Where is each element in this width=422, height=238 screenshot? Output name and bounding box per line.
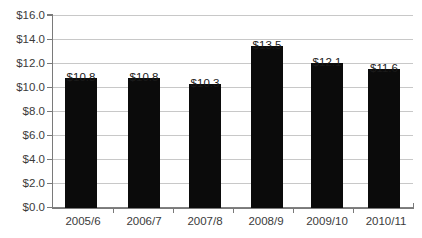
x-axis-label-2008-9: 2008/9	[248, 216, 283, 228]
bar-chart-figure: $16.0 $14.0 $12.0 $10.0 $8.0 $6.0 $4.0 $…	[0, 0, 422, 238]
y-axis-tick-label: $14.0	[1, 34, 45, 46]
bar-2010-11	[368, 69, 400, 208]
bar-value-label-2008-9: $13.5	[253, 40, 282, 52]
gridline	[53, 135, 413, 136]
bar-value-label-2006-7: $10.8	[130, 72, 159, 84]
x-axis-end-cap	[413, 203, 414, 209]
y-axis-tick-label: $12.0	[1, 58, 45, 70]
bar-2009-10	[311, 63, 343, 208]
bar-2006-7	[128, 78, 160, 208]
bar-value-label-2005-6: $10.8	[67, 72, 96, 84]
y-axis-tick-label: $6.0	[1, 130, 45, 142]
x-axis-label-2007-8: 2007/8	[187, 216, 222, 228]
y-axis-tick-label: $10.0	[1, 82, 45, 94]
x-axis-label-2010-11: 2010/11	[366, 216, 407, 228]
bar-value-label-2007-8: $10.3	[191, 78, 220, 90]
bar-2008-9	[251, 46, 283, 208]
x-axis-tick-mark	[353, 208, 354, 213]
x-axis-label-2006-7: 2006/7	[126, 216, 161, 228]
x-axis-tick-mark	[293, 208, 294, 213]
y-axis-tick-label: $0.0	[1, 202, 45, 214]
bar-2007-8	[189, 84, 221, 208]
gridline	[53, 39, 413, 40]
bar-value-label-2009-10: $12.1	[313, 57, 342, 69]
gridline	[53, 159, 413, 160]
gridline	[53, 63, 413, 64]
y-axis-tick-label: $4.0	[1, 154, 45, 166]
x-axis-tick-mark	[173, 208, 174, 213]
y-axis-top-cap	[47, 14, 53, 15]
gridline	[53, 183, 413, 184]
gridline	[53, 111, 413, 112]
x-axis-label-2005-6: 2005/6	[65, 216, 100, 228]
y-axis-line	[52, 14, 53, 209]
bar-value-label-2010-11: $11.6	[370, 63, 398, 75]
x-axis-tick-mark	[233, 208, 234, 213]
y-axis-labels: $16.0 $14.0 $12.0 $10.0 $8.0 $6.0 $4.0 $…	[0, 0, 45, 238]
x-axis-tick-mark	[113, 208, 114, 213]
x-axis-label-2009-10: 2009/10	[306, 216, 348, 228]
y-axis-tick-label: $16.0	[1, 10, 45, 22]
y-axis-tick-label: $8.0	[1, 106, 45, 118]
bar-2005-6	[65, 78, 97, 208]
plot-area	[53, 15, 413, 208]
y-axis-tick-label: $2.0	[1, 178, 45, 190]
gridline	[53, 15, 413, 16]
gridline	[53, 87, 413, 88]
